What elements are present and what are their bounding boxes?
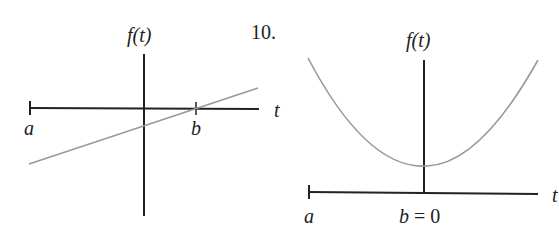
right-x-axis-label: t	[552, 185, 558, 205]
diagram-canvas	[0, 0, 559, 248]
right-y-axis-label: f(t)	[406, 30, 430, 50]
left-b-label: b	[191, 118, 201, 138]
right-a-label: a	[304, 206, 314, 226]
left-a-label: a	[24, 118, 34, 138]
right-b-label: b = 0	[399, 206, 440, 226]
left-x-axis-label: t	[274, 100, 280, 120]
left-graph	[29, 54, 259, 216]
problem-number: 10.	[251, 22, 276, 42]
left-y-axis-label: f(t)	[127, 25, 151, 45]
right-graph	[308, 58, 538, 199]
